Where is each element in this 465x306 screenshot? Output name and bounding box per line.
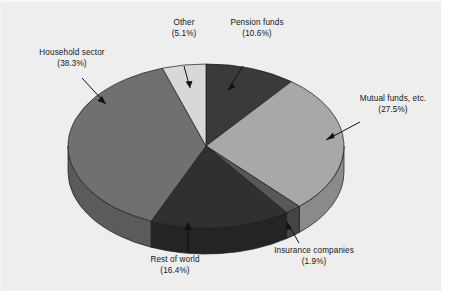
pie-label-rest-of-world: Rest of world (16.4%)	[130, 255, 220, 276]
pie-chart-graphic	[0, 0, 465, 306]
pie-label-other-percent: (5.1%)	[152, 29, 216, 40]
pie-label-rest-of-world-text: Rest of world	[150, 255, 199, 264]
pie-3d	[68, 64, 344, 254]
pie-label-insurance-companies: Insurance companies (1.9%)	[252, 246, 376, 267]
pie-label-insurance-companies-text: Insurance companies	[274, 246, 354, 255]
pie-label-rest-of-world-percent: (16.4%)	[130, 266, 220, 277]
pie-label-household-sector: Household sector (38.3%)	[16, 48, 128, 69]
pie-label-mutual-funds-text: Mutual funds, etc.	[360, 94, 426, 103]
pie-label-household-sector-percent: (38.3%)	[16, 59, 128, 70]
pie-label-other-text: Other	[174, 18, 195, 27]
pie-label-other: Other (5.1%)	[152, 18, 216, 39]
pie-label-mutual-funds-percent: (27.5%)	[340, 105, 446, 116]
pie-label-insurance-companies-percent: (1.9%)	[252, 257, 376, 268]
figure-root: Other (5.1%) Pension funds (10.6%) House…	[0, 0, 465, 306]
pie-label-pension-funds-percent: (10.6%)	[214, 29, 300, 40]
pie-label-pension-funds: Pension funds (10.6%)	[214, 18, 300, 39]
pie-label-mutual-funds: Mutual funds, etc. (27.5%)	[340, 94, 446, 115]
pie-label-household-sector-text: Household sector	[39, 48, 104, 57]
pie-label-pension-funds-text: Pension funds	[230, 18, 283, 27]
